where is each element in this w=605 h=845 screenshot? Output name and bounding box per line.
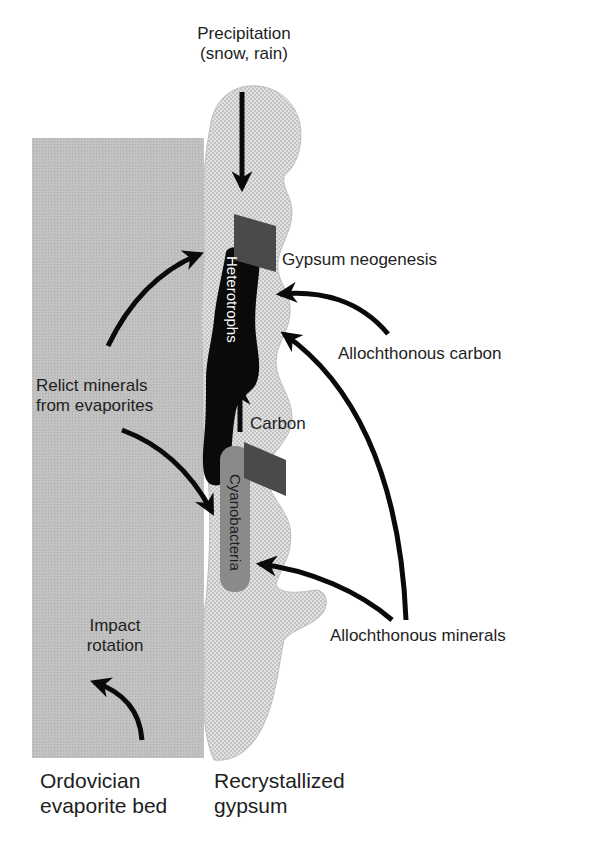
recrystallized-gypsum-label: Recrystallized gypsum <box>214 768 345 818</box>
cyanobacteria-label: Cyanobacteria <box>227 474 244 571</box>
relict-minerals-line2: from evaporites <box>36 396 153 416</box>
ordovician-evaporite-bed-label: Ordovician evaporite bed <box>40 768 167 818</box>
gypsum-neogenesis-label: Gypsum neogenesis <box>282 250 437 270</box>
ordovician-line1: Ordovician <box>40 768 167 793</box>
precipitation-line2: (snow, rain) <box>184 44 304 64</box>
precipitation-label: Precipitation (snow, rain) <box>184 24 304 64</box>
recrystallized-line1: Recrystallized <box>214 768 345 793</box>
allochthonous-carbon-arrow-1 <box>280 293 388 334</box>
allochthonous-carbon-arrow-2 <box>284 334 406 620</box>
allochthonous-minerals-label: Allochthonous minerals <box>330 626 506 646</box>
impact-line1: Impact <box>70 616 160 636</box>
precipitation-line1: Precipitation <box>184 24 304 44</box>
impact-rotation-label: Impact rotation <box>70 616 160 656</box>
carbon-label: Carbon <box>250 414 306 434</box>
ordovician-line2: evaporite bed <box>40 793 167 818</box>
relict-minerals-label: Relict minerals from evaporites <box>36 376 153 416</box>
allochthonous-carbon-label: Allochthonous carbon <box>338 344 502 364</box>
heterotrophs-label: Heterotrophs <box>224 256 241 343</box>
relict-minerals-line1: Relict minerals <box>36 376 153 396</box>
recrystallized-line2: gypsum <box>214 793 345 818</box>
impact-line2: rotation <box>70 636 160 656</box>
evaporite-bed-block <box>32 138 204 758</box>
